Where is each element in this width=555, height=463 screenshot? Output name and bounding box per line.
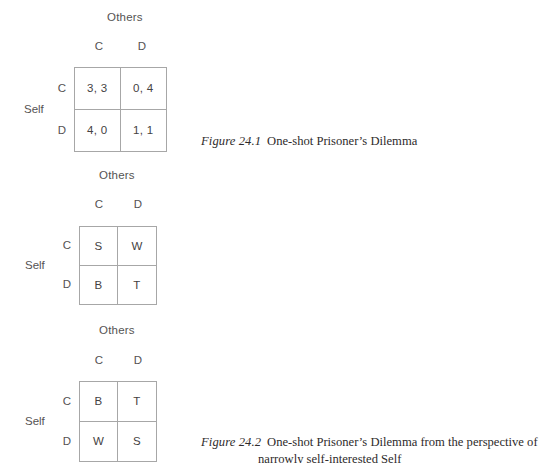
others-group-label: Others — [107, 11, 143, 23]
figure-page: { "figures": [ { "id": "figure-1", "colu… — [0, 0, 555, 463]
matrix-cell-cd: 0, 4 — [121, 68, 167, 110]
figure-caption-line-1: One-shot Prisoner’s Dilemma — [261, 134, 417, 148]
figure-caption-line-1: One-shot Prisoner’s Dilemma from the per… — [261, 435, 537, 449]
self-group-label: Self — [24, 103, 44, 115]
matrix-grid: B T W S — [79, 381, 157, 462]
figure-caption-line-2: narrowly self-interested Self — [201, 451, 538, 463]
matrix-cell-dc: 4, 0 — [75, 110, 121, 152]
matrix-cell-cd: W — [118, 227, 156, 266]
matrix-grid: S W B T — [79, 226, 157, 305]
column-header-d: D — [131, 354, 145, 366]
matrix-cell-cc: 3, 3 — [75, 68, 121, 110]
others-group-label: Others — [99, 169, 135, 181]
column-header-c: C — [92, 198, 106, 210]
matrix-cell-dd: 1, 1 — [121, 110, 167, 152]
matrix-cell-dd: T — [118, 266, 156, 305]
matrix-cell-dc: B — [80, 266, 118, 305]
matrix-cell-cc: S — [80, 227, 118, 266]
row-header-d: D — [61, 435, 73, 447]
self-group-label: Self — [25, 415, 45, 427]
row-header-d: D — [56, 124, 68, 136]
figure-caption: Figure 24.2One-shot Prisoner’s Dilemma f… — [201, 434, 538, 463]
row-header-c: C — [56, 82, 68, 94]
matrix-grid: 3, 3 0, 4 4, 0 1, 1 — [74, 67, 167, 152]
self-group-label: Self — [25, 259, 45, 271]
row-header-c: C — [61, 395, 73, 407]
row-header-c: C — [61, 239, 73, 251]
matrix-cell-cd: T — [118, 382, 156, 422]
column-header-c: C — [92, 40, 106, 52]
figure-number: Figure 24.2 — [201, 435, 261, 449]
column-header-c: C — [92, 354, 106, 366]
matrix-cell-dc: W — [80, 422, 118, 462]
others-group-label: Others — [99, 324, 135, 336]
matrix-cell-dd: S — [118, 422, 156, 462]
figure-number: Figure 24.1 — [201, 134, 261, 148]
figure-caption: Figure 24.1One-shot Prisoner’s Dilemma — [201, 133, 417, 150]
matrix-cell-cc: B — [80, 382, 118, 422]
column-header-d: D — [131, 198, 145, 210]
row-header-d: D — [61, 278, 73, 290]
column-header-d: D — [135, 40, 149, 52]
